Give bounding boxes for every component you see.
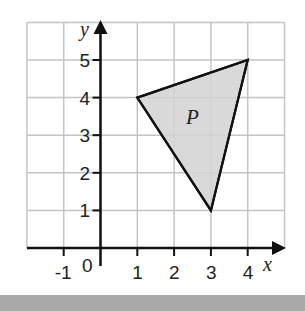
y-axis: [94, 20, 108, 266]
x-tick-label: 1: [132, 262, 143, 283]
footer-band: [0, 295, 305, 311]
origin-label: 0: [82, 255, 93, 276]
triangle-p-label: P: [185, 105, 199, 129]
y-tick-label: 4: [80, 88, 91, 109]
y-tick-labels: 12345: [80, 50, 91, 221]
coordinate-diagram: -11234 12345 0 x y P: [0, 0, 305, 311]
y-tick-label: 2: [80, 163, 91, 184]
x-tick-label: -1: [55, 262, 72, 283]
grid-svg: -11234 12345 0 x y P: [0, 0, 305, 311]
grid-lines: [27, 22, 285, 248]
x-tick-label: 3: [206, 262, 217, 283]
x-tick-label: 2: [169, 262, 180, 283]
x-axis-label: x: [262, 253, 272, 275]
y-axis-label: y: [78, 18, 89, 41]
y-tick-label: 1: [80, 200, 91, 221]
x-tick-label: 4: [243, 262, 254, 283]
y-tick-label: 5: [80, 50, 91, 71]
y-tick-label: 3: [80, 125, 91, 146]
